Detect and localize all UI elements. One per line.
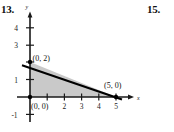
point-label-y-intercept: (0, 2): [33, 54, 51, 63]
y-tick-label-minus-1: -1: [11, 111, 17, 120]
plot-svg: y x 4 3 1 -1 2 3 4 5 (0, 0) (0, 2) (5, 0…: [0, 0, 174, 132]
x-tick-label-4: 4: [97, 102, 101, 111]
x-tick-label-3: 3: [80, 102, 84, 111]
x-tick-label-2: 2: [63, 102, 67, 111]
x-axis-label: x: [136, 95, 140, 101]
shaded-region: [30, 62, 116, 97]
y-axis-arrowhead: [28, 12, 33, 18]
y-tick-label-4: 4: [14, 24, 18, 33]
vertex-marker-x-intercept: [114, 95, 118, 99]
vertex-marker-origin: [28, 95, 32, 99]
figure-panel: 13. 15.: [0, 0, 174, 132]
y-axis-label: y: [25, 4, 29, 10]
point-label-origin: (0, 0): [31, 102, 49, 111]
coordinate-plot: y x 4 3 1 -1 2 3 4 5 (0, 0) (0, 2) (5, 0…: [0, 0, 174, 132]
y-tick-label-1: 1: [14, 76, 18, 85]
x-axis-arrowhead: [128, 95, 134, 100]
y-tick-label-3: 3: [14, 41, 18, 50]
x-tick-label-5: 5: [114, 102, 118, 111]
point-label-x-intercept: (5, 0): [104, 81, 122, 90]
